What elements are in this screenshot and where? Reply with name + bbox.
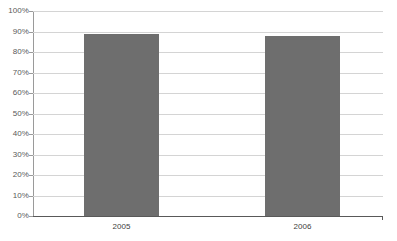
y-axis-tick-label: 60% [1,89,29,97]
gridline [33,32,383,33]
bar-chart: 100% 90% 80% 70% 60% 50% 40% 30% 20% 10%… [0,0,397,241]
bar [84,34,159,216]
plot-area [33,11,383,216]
x-axis-tick-label: 2006 [265,223,340,231]
y-axis-tick-label: 50% [1,110,29,118]
y-axis-tick-label: 20% [1,171,29,179]
y-axis-tick-label: 80% [1,48,29,56]
gridline [33,11,383,12]
x-axis-endcap [382,216,383,220]
bar [265,36,340,216]
y-axis-tick-label: 40% [1,130,29,138]
y-axis-tick-label: 30% [1,151,29,159]
y-axis-tick-label: 70% [1,69,29,77]
y-axis-tick-label: 100% [1,7,29,15]
x-axis-tick-label: 2005 [84,223,159,231]
y-axis-tick-label: 90% [1,28,29,36]
x-axis-baseline [33,216,383,217]
y-axis-tick-labels: 100% 90% 80% 70% 60% 50% 40% 30% 20% 10%… [0,0,29,241]
y-axis-tick-label: 10% [1,192,29,200]
y-axis-tick-label: 0% [1,212,29,220]
